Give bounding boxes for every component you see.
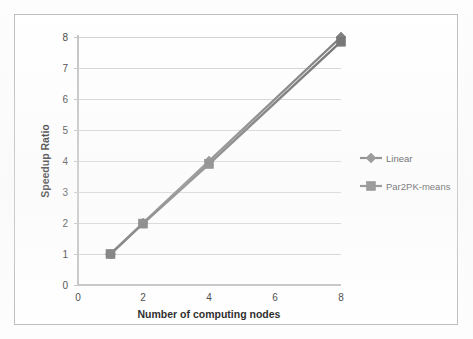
square-marker <box>106 250 115 259</box>
legend-item-linear[interactable]: Linear <box>360 153 412 164</box>
x-tick-0: 0 <box>75 292 81 303</box>
chart-area: 8 7 6 5 4 3 2 1 0 0 2 4 6 8 Number of co… <box>15 15 459 326</box>
square-marker <box>205 160 214 169</box>
y-tick-1: 1 <box>62 249 68 260</box>
y-tick-2: 2 <box>62 218 68 229</box>
x-axis-title: Number of computing nodes <box>138 308 281 320</box>
diamond-marker <box>366 153 376 163</box>
y-tick-3: 3 <box>62 187 68 198</box>
square-marker <box>337 37 346 46</box>
legend-item-par2pk-means[interactable]: Par2PK-means <box>360 181 451 192</box>
y-tick-4: 4 <box>62 156 68 167</box>
y-axis-tickmarks <box>74 37 78 285</box>
y-axis-tick-labels: 8 7 6 5 4 3 2 1 0 <box>62 32 68 291</box>
x-tick-4: 4 <box>206 292 212 303</box>
x-tick-2: 2 <box>140 292 146 303</box>
x-tick-6: 6 <box>272 292 278 303</box>
square-marker <box>367 182 376 191</box>
y-tick-0: 0 <box>62 280 68 291</box>
legend: Linear Par2PK-means <box>360 153 451 192</box>
y-tick-8: 8 <box>62 32 68 43</box>
y-axis-title: Speedup Ratio <box>39 124 51 198</box>
legend-label-par2pk-means: Par2PK-means <box>386 181 451 192</box>
y-tick-5: 5 <box>62 125 68 136</box>
x-tick-8: 8 <box>338 292 344 303</box>
legend-label-linear: Linear <box>386 153 412 164</box>
square-marker <box>139 219 148 228</box>
y-tick-7: 7 <box>62 63 68 74</box>
x-axis-tick-labels: 0 2 4 6 8 <box>75 292 344 303</box>
y-tick-6: 6 <box>62 94 68 105</box>
figure-frame: 8 7 6 5 4 3 2 1 0 0 2 4 6 8 Number of co… <box>14 14 458 325</box>
speedup-ratio-line-chart: 8 7 6 5 4 3 2 1 0 0 2 4 6 8 Number of co… <box>15 15 459 326</box>
